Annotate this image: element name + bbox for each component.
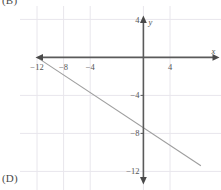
coordinate-plot: y x −12 −8 −4 4 4 −4 −8 −12 xyxy=(0,0,221,190)
data-line xyxy=(37,57,201,165)
plot-svg: y x −12 −8 −4 4 4 −4 −8 −12 xyxy=(0,0,221,190)
x-tick-label--12: −12 xyxy=(30,62,43,72)
x-tick-label--8: −8 xyxy=(59,62,68,72)
y-axis-label: y xyxy=(148,17,153,27)
y-tick-label--4: −4 xyxy=(130,90,140,100)
x-tick-label-4: 4 xyxy=(168,62,173,72)
x-tick-label--4: −4 xyxy=(86,62,96,72)
y-tick-label--12: −12 xyxy=(126,166,139,176)
choice-label-d: (D) xyxy=(2,172,18,184)
grid-horizontal xyxy=(20,19,221,171)
y-axis-down-arrow-icon xyxy=(140,177,147,185)
choice-label-b: (B) xyxy=(2,0,17,6)
x-axis-label: x xyxy=(211,46,216,56)
y-tick-label--8: −8 xyxy=(130,128,139,138)
grid-vertical xyxy=(37,6,170,190)
